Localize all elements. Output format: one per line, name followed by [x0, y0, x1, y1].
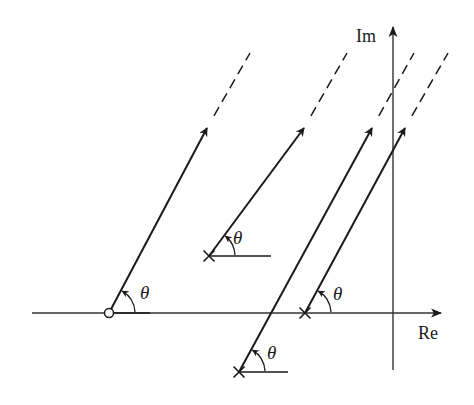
- theta-label: θ: [333, 284, 342, 303]
- ray-pole-upper: [204, 53, 348, 262]
- ray-dashed-extension: [311, 53, 347, 116]
- ray-pole-axis: [300, 53, 449, 319]
- diagram-svg: [0, 0, 474, 405]
- ray-solid: [239, 128, 372, 372]
- real-axis-label: Re: [418, 324, 438, 342]
- angle-arc: [318, 291, 331, 312]
- ray-solid: [209, 128, 304, 256]
- ray-pole-lower: [234, 53, 415, 378]
- angle-arc: [122, 291, 135, 312]
- theta-label: θ: [140, 283, 149, 302]
- theta-label: θ: [233, 228, 242, 247]
- asymptote-rays: [105, 53, 449, 378]
- axes: [32, 27, 441, 370]
- ray-dashed-extension: [379, 53, 414, 116]
- ray-zero: [105, 53, 251, 318]
- ray-solid: [305, 128, 405, 313]
- zero-marker-icon: [105, 309, 114, 318]
- ray-dashed-extension: [412, 53, 448, 116]
- ray-solid: [109, 128, 207, 313]
- root-locus-diagram: Im Re θθθθ: [0, 0, 474, 405]
- ray-dashed-extension: [214, 53, 250, 116]
- angle-arc: [252, 350, 265, 371]
- imag-axis-label: Im: [356, 27, 376, 45]
- theta-label: θ: [267, 343, 276, 362]
